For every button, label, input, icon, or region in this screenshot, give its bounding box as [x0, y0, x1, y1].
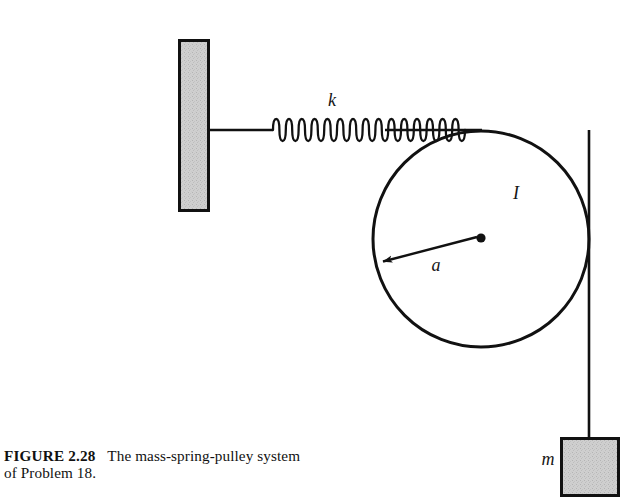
caption-gap [96, 447, 108, 464]
mass-spring-pulley-diagram: k I a m [0, 0, 635, 499]
label-pulley-inertia: I [512, 183, 520, 203]
hanging-mass-block [562, 439, 619, 496]
figure-container: k I a m FIGURE 2.28 The mass-spring-pull… [0, 0, 635, 499]
mass-block [562, 439, 619, 496]
wall [180, 41, 209, 211]
radius-arrow [383, 237, 477, 262]
label-pulley-radius: a [432, 255, 441, 275]
pulley [373, 131, 589, 347]
pulley-center-dot [476, 233, 485, 242]
label-spring-constant: k [328, 90, 337, 110]
label-hanging-mass: m [542, 449, 555, 469]
figure-number: FIGURE 2.28 [4, 447, 96, 464]
wall-block [180, 41, 209, 211]
figure-caption: FIGURE 2.28 The mass-spring-pulley syste… [4, 447, 304, 481]
